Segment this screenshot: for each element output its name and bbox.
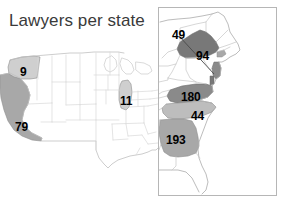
state-label-california: 79 — [15, 121, 28, 133]
state-label-north-carolina: 44 — [191, 110, 204, 122]
state-label-georgia: 193 — [166, 134, 185, 146]
state-label-illinois: 11 — [120, 95, 132, 107]
lawyers-per-state-map: Lawyers per state — [0, 0, 285, 203]
state-label-new-jersey: 49 — [172, 29, 185, 41]
state-label-new-york: 94 — [196, 50, 209, 62]
state-label-virginia: 180 — [181, 91, 200, 103]
state-delaware-shape — [210, 76, 214, 85]
map-graphic — [0, 0, 285, 203]
state-label-oregon: 9 — [20, 66, 26, 78]
